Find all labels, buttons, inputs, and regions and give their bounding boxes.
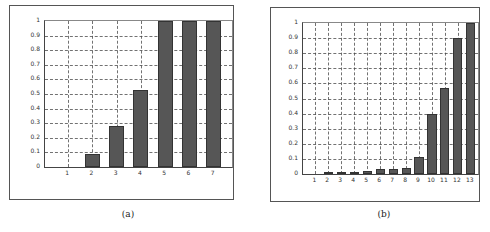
y-tick-label: 0: [276, 169, 298, 176]
bar: [453, 38, 462, 174]
y-tick-label: 0.5: [276, 94, 298, 101]
bar: [85, 154, 100, 167]
chart-a-plot: [44, 20, 233, 168]
bar: [402, 168, 411, 174]
bar: [109, 126, 124, 167]
y-tick-label: 0.3: [276, 124, 298, 131]
y-tick-label: 0.9: [276, 33, 298, 40]
chart-a-caption: (a): [108, 209, 148, 219]
y-tick-label: 0.5: [18, 89, 40, 96]
bar: [389, 169, 398, 174]
x-tick-label: 1: [59, 169, 75, 176]
gridline-vertical: [393, 23, 394, 174]
gridline-horizontal: [45, 36, 232, 37]
x-tick-label: 2: [83, 169, 99, 176]
gridline-vertical: [367, 23, 368, 174]
y-tick-label: 1: [18, 16, 40, 23]
gridline-vertical: [328, 23, 329, 174]
y-tick-label: 0.6: [18, 74, 40, 81]
bar: [363, 171, 372, 174]
gridline-vertical: [419, 23, 420, 174]
gridline-vertical: [92, 21, 93, 167]
bar: [324, 172, 333, 174]
gridline-horizontal: [45, 79, 232, 80]
gridline-vertical: [380, 23, 381, 174]
chart-b-plot: [302, 22, 479, 175]
bar: [350, 172, 359, 174]
gridline-vertical: [315, 23, 316, 174]
bar: [427, 114, 436, 174]
y-tick-label: 0.3: [18, 118, 40, 125]
y-tick-label: 0.2: [18, 133, 40, 140]
bar: [440, 88, 449, 174]
y-tick-label: 0.8: [276, 48, 298, 55]
x-tick-label: 7: [205, 169, 221, 176]
gridline-vertical: [354, 23, 355, 174]
y-tick-label: 0.8: [18, 45, 40, 52]
bar: [466, 23, 475, 174]
bar: [376, 169, 385, 174]
gridline-vertical: [68, 21, 69, 167]
gridline-horizontal: [45, 50, 232, 51]
x-tick-label: 13: [462, 176, 478, 183]
y-tick-label: 0.4: [276, 109, 298, 116]
gridline-vertical: [406, 23, 407, 174]
chart-b-caption: (b): [364, 209, 404, 219]
bar: [337, 172, 346, 174]
y-tick-label: 0: [18, 162, 40, 169]
x-tick-label: 3: [108, 169, 124, 176]
x-tick-label: 5: [156, 169, 172, 176]
y-tick-label: 0.1: [276, 154, 298, 161]
bar: [206, 21, 221, 167]
bar: [158, 21, 173, 167]
y-tick-label: 0.4: [18, 104, 40, 111]
y-tick-label: 1: [276, 18, 298, 25]
gridline-horizontal: [45, 65, 232, 66]
y-tick-label: 0.6: [276, 78, 298, 85]
gridline-vertical: [341, 23, 342, 174]
y-tick-label: 0.1: [18, 147, 40, 154]
bar: [182, 21, 197, 167]
y-tick-label: 0.2: [276, 139, 298, 146]
bar: [414, 157, 423, 174]
y-tick-label: 0.9: [18, 31, 40, 38]
y-tick-label: 0.7: [18, 60, 40, 67]
y-tick-label: 0.7: [276, 63, 298, 70]
x-tick-label: 4: [132, 169, 148, 176]
x-tick-label: 6: [181, 169, 197, 176]
bar: [133, 90, 148, 167]
